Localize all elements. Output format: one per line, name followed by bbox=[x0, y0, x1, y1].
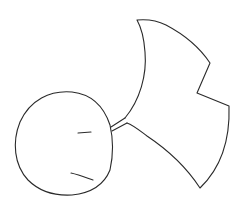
sketch-svg bbox=[0, 0, 245, 208]
fan-leaf bbox=[125, 20, 229, 188]
round-shape bbox=[15, 92, 112, 195]
sketch-canvas bbox=[0, 0, 245, 208]
inner-marks bbox=[71, 132, 93, 180]
stem bbox=[111, 118, 127, 131]
